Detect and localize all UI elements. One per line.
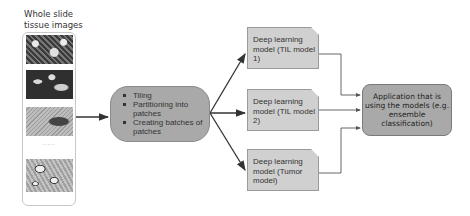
- ellipsis: .....: [23, 140, 75, 146]
- model-node-til-2: Deep learning model (TIL model 2): [247, 89, 319, 131]
- arrow-model-1-to-app: [319, 54, 360, 95]
- arrow-model-3-to-app: [319, 128, 360, 173]
- tissue-image-1: [26, 35, 73, 64]
- arrow-process-to-model-1: [210, 54, 245, 113]
- tissue-image-3: [26, 107, 73, 136]
- model-label: Deep learning model (Tumor model): [248, 150, 318, 186]
- preprocessing-node: Tiling Partitioning into patches Creatin…: [110, 86, 210, 142]
- tissue-image-2: [26, 70, 73, 99]
- arrow-process-to-model-3: [210, 113, 245, 170]
- model-label: Deep learning model (TIL model 1): [248, 28, 318, 64]
- tissue-image-4: [26, 159, 73, 192]
- application-node: Application that is using the models (e.…: [362, 84, 452, 136]
- slide-images-panel: .....: [22, 32, 76, 206]
- model-node-til-1: Deep learning model (TIL model 1): [247, 27, 319, 69]
- process-item: Creating batches of patches: [133, 118, 209, 136]
- model-node-tumor: Deep learning model (Tumor model): [247, 149, 319, 191]
- model-label: Deep learning model (TIL model 2): [248, 90, 318, 126]
- process-item: Partitioning into patches: [133, 100, 209, 118]
- process-item: Tiling: [133, 91, 209, 100]
- input-label: Whole slide tissue images: [24, 9, 84, 30]
